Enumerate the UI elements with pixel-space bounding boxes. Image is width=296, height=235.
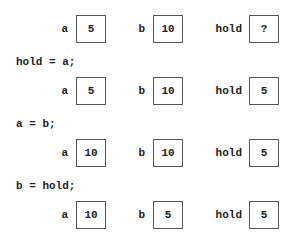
var-box-hold: 5 — [249, 77, 279, 105]
var-box-a: 10 — [76, 201, 106, 229]
var-label-b: b — [128, 15, 145, 43]
var-box-b: 10 — [153, 77, 183, 105]
var-label-b: b — [128, 201, 145, 229]
state-row-after-3: a 10 b 5 hold 5 — [0, 201, 296, 229]
var-box-b: 10 — [153, 15, 183, 43]
state-row-after-2: a 10 b 10 hold 5 — [0, 139, 296, 167]
var-label-hold: hold — [196, 201, 242, 229]
var-label-hold: hold — [196, 15, 242, 43]
var-label-a: a — [50, 201, 68, 229]
statement-2: a = b; — [16, 117, 56, 131]
var-label-b: b — [128, 77, 145, 105]
var-label-a: a — [50, 15, 68, 43]
var-box-a: 10 — [76, 139, 106, 167]
var-box-b: 10 — [153, 139, 183, 167]
var-box-hold: 5 — [249, 201, 279, 229]
var-label-hold: hold — [196, 139, 242, 167]
state-row-after-1: a 5 b 10 hold 5 — [0, 77, 296, 105]
var-box-hold: 5 — [249, 139, 279, 167]
var-box-a: 5 — [76, 15, 106, 43]
var-label-b: b — [128, 139, 145, 167]
var-label-a: a — [50, 77, 68, 105]
var-box-b: 5 — [153, 201, 183, 229]
state-row-initial: a 5 b 10 hold ? — [0, 15, 296, 43]
statement-3: b = hold; — [16, 179, 75, 193]
var-box-a: 5 — [76, 77, 106, 105]
var-label-a: a — [50, 139, 68, 167]
var-label-hold: hold — [196, 77, 242, 105]
statement-1: hold = a; — [16, 55, 75, 69]
var-box-hold: ? — [249, 15, 279, 43]
